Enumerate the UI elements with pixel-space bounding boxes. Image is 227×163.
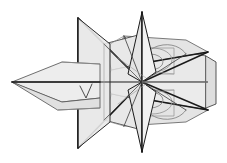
wireframe-figure	[0, 0, 227, 163]
illustration-canvas: Faceted polyhedral wireframe illustratio…	[0, 0, 227, 163]
